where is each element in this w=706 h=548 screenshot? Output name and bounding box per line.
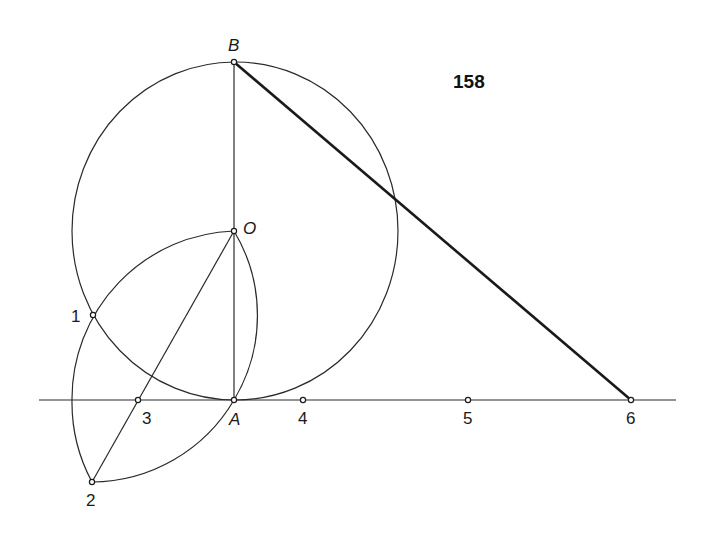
point-3	[135, 397, 140, 402]
label-6: 6	[626, 409, 635, 428]
label-3: 3	[142, 409, 151, 428]
point-6	[628, 397, 633, 402]
label-O: O	[243, 219, 256, 238]
point-2	[89, 479, 94, 484]
label-5: 5	[463, 409, 472, 428]
geometry-construction-diagram: B O A 1 2 3 4 5 6 158	[0, 0, 706, 548]
point-B	[231, 59, 236, 64]
point-O	[231, 228, 236, 233]
label-1: 1	[71, 307, 80, 326]
arc-centered-1-upper	[234, 231, 257, 400]
point-5	[465, 397, 470, 402]
arc-centered-A	[72, 231, 234, 482]
segment-B-6	[234, 62, 631, 400]
label-A: A	[228, 410, 240, 429]
segment-2-O	[92, 231, 234, 482]
point-1	[90, 312, 95, 317]
label-4: 4	[298, 409, 307, 428]
point-4	[300, 397, 305, 402]
label-2: 2	[86, 491, 95, 510]
point-A	[231, 397, 236, 402]
label-B: B	[228, 36, 239, 55]
arc-centered-1-lower	[92, 400, 234, 482]
figure-number: 158	[453, 71, 485, 92]
